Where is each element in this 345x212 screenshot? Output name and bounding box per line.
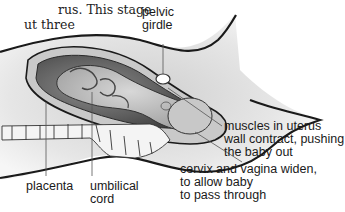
caption-line-2: ut three: [24, 17, 75, 32]
birth-diagram: rus. This stage ut three pelvic girdle m…: [0, 0, 345, 212]
label-pelvic-girdle: pelvic girdle: [142, 6, 174, 32]
label-placenta: placenta: [26, 180, 73, 193]
label-muscles-uterus: muscles in uterus wall contract, pushing…: [224, 120, 344, 159]
caption-line-1: rus. This stage: [58, 2, 151, 17]
pelvic-girdle-bone: [156, 74, 170, 84]
label-umbilical-cord: umbilical cord: [90, 180, 139, 206]
label-cervix-vagina: cervix and vagina widen, to allow baby t…: [180, 163, 317, 202]
